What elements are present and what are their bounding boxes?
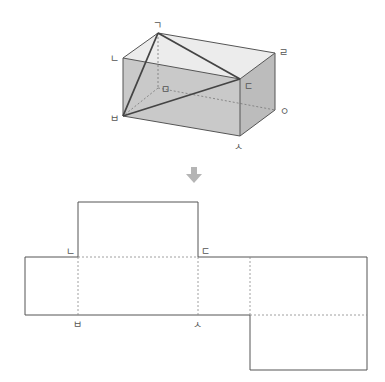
net-label-n: ㄴ xyxy=(66,246,75,257)
cuboid-label-s: ㅅ xyxy=(234,141,243,152)
down-arrow-icon xyxy=(186,167,202,183)
net-label-d: ㄷ xyxy=(201,246,210,257)
diagram-canvas: ㄱ ㄴ ㄷ ㄹ ㅁ ㅂ ㅅ ㅇ ㄴ ㄷ ㅂ ㅅ xyxy=(0,0,385,382)
cuboid: ㄱ ㄴ ㄷ ㄹ ㅁ ㅂ ㅅ ㅇ xyxy=(110,20,289,152)
net-label-s: ㅅ xyxy=(193,319,202,330)
cuboid-label-b: ㅂ xyxy=(110,113,119,124)
net-label-b: ㅂ xyxy=(73,319,82,330)
cuboid-label-m: ㅁ xyxy=(161,84,170,95)
net: ㄴ ㄷ ㅂ ㅅ xyxy=(25,202,367,370)
net-outline xyxy=(25,202,367,370)
cuboid-label-r: ㄹ xyxy=(279,47,288,58)
cuboid-label-o: ㅇ xyxy=(280,106,289,117)
cuboid-label-g: ㄱ xyxy=(153,20,162,31)
cuboid-label-d: ㄷ xyxy=(244,81,253,92)
net-fold-lines xyxy=(78,257,367,315)
cuboid-label-n: ㄴ xyxy=(110,53,119,64)
